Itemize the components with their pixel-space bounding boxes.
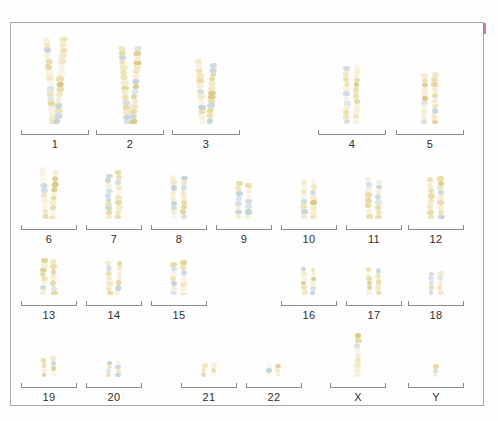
chromosome-band — [170, 291, 176, 295]
chromosome — [302, 267, 308, 295]
chromosome — [42, 357, 48, 377]
group-label-19: 19 — [21, 391, 77, 403]
chromosome — [202, 362, 208, 377]
chromosome-band — [266, 373, 271, 377]
chromosome — [311, 267, 317, 295]
group-bracket-Y — [408, 383, 464, 388]
chromosome-group-X: X — [330, 23, 386, 405]
group-bracket-21 — [181, 383, 237, 388]
chromosome-band — [433, 373, 438, 377]
chromosome — [276, 364, 282, 377]
chromosome-group-22: 22 — [246, 23, 302, 405]
chromosome-band — [302, 290, 308, 295]
chromosome-band — [267, 363, 273, 368]
chromosome-band — [211, 373, 216, 377]
chromosome — [355, 333, 362, 377]
group-label-X: X — [330, 391, 386, 403]
chromosome — [51, 356, 57, 377]
chromosome-pair-22 — [246, 363, 302, 377]
chromosome-group-Y: Y — [408, 23, 464, 405]
chromosome-pair-19 — [21, 357, 77, 377]
chromosome-group-19: 19 — [21, 23, 77, 405]
chromosome-pair-X — [330, 333, 386, 377]
group-bracket-19 — [21, 383, 77, 388]
chromosome-pair-Y — [408, 364, 464, 377]
chromosome-pair-21 — [181, 362, 237, 377]
chromosome — [116, 359, 122, 377]
chromosome-band — [106, 373, 111, 377]
chromosome-group-20: 20 — [86, 23, 142, 405]
karyotype-panel: 12345678910111213141516171819202122XY — [10, 22, 484, 406]
chromosome — [267, 363, 273, 377]
chromosome — [171, 261, 178, 295]
chromosome-band — [310, 291, 315, 295]
chromosome-group-21: 21 — [181, 23, 237, 405]
group-bracket-22 — [246, 383, 302, 388]
group-bracket-X — [330, 383, 386, 388]
chromosome-band — [354, 373, 360, 377]
group-label-20: 20 — [86, 391, 142, 403]
chromosome-band — [276, 373, 281, 377]
chromosome — [433, 364, 439, 377]
chromosome-band — [115, 373, 121, 377]
chromosome-band — [51, 371, 56, 377]
chromosome — [107, 358, 113, 377]
chromosome — [211, 362, 217, 377]
chromosome-band — [42, 373, 47, 377]
group-bracket-20 — [86, 383, 142, 388]
chromosome-band — [201, 372, 206, 377]
chromosome-pair-20 — [86, 358, 142, 377]
group-label-21: 21 — [181, 391, 237, 403]
group-label-22: 22 — [246, 391, 302, 403]
group-label-Y: Y — [408, 391, 464, 403]
corner-red-mark — [483, 23, 486, 34]
